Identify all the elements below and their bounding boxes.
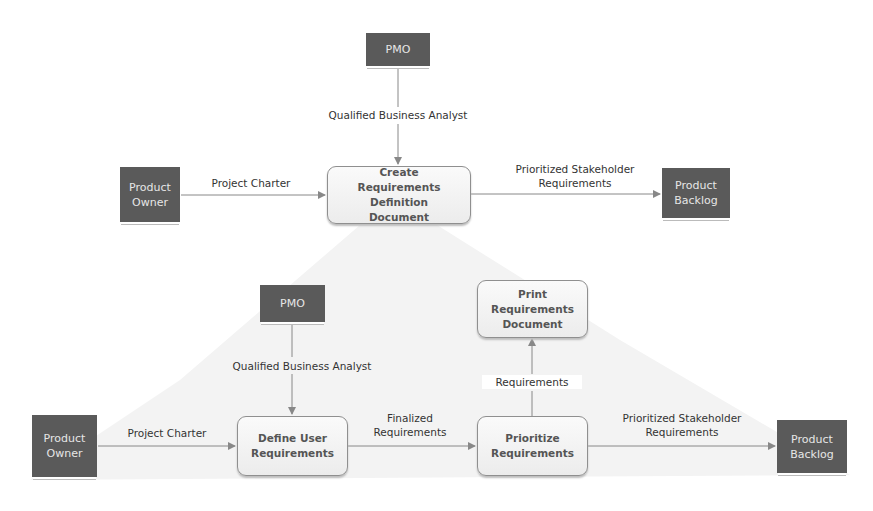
bottom-edge-label-requirements: Requirements	[482, 375, 582, 389]
process-prioritize-label: Prioritize Requirements	[490, 431, 575, 461]
top-product-owner-entity[interactable]: Product Owner	[120, 167, 180, 222]
diagram-canvas: PMO Qualified Business Analyst Product O…	[0, 0, 873, 511]
bottom-edge-label-project-charter: Project Charter	[112, 426, 222, 440]
bottom-edge-label-finalized-requirements: Finalized Requirements	[360, 411, 460, 439]
top-edge-label-project-charter: Project Charter	[196, 176, 306, 190]
top-edge-label-qualified-ba: Qualified Business Analyst	[318, 108, 478, 122]
process-define-user-requirements[interactable]: Define User Requirements	[237, 416, 348, 476]
top-pmo-entity[interactable]: PMO	[366, 33, 430, 66]
bottom-product-backlog-entity[interactable]: Product Backlog	[777, 420, 847, 473]
process-print-requirements-document[interactable]: Print Requirements Document	[477, 280, 588, 338]
top-edge-label-prioritized-stakeholder-requirements: Prioritized Stakeholder Requirements	[500, 162, 650, 190]
top-product-backlog-label: Product Backlog	[671, 178, 721, 208]
process-print-label: Print Requirements Document	[488, 287, 578, 332]
process-create-requirements-definition-document[interactable]: Create Requirements Definition Document	[327, 166, 471, 224]
bottom-product-owner-entity[interactable]: Product Owner	[32, 415, 97, 477]
process-create-label: Create Requirements Definition Document	[344, 165, 454, 225]
top-product-owner-label: Product Owner	[125, 180, 175, 210]
bottom-pmo-label: PMO	[280, 296, 305, 311]
bottom-edge-label-qualified-ba: Qualified Business Analyst	[222, 359, 382, 373]
bottom-product-owner-label: Product Owner	[40, 431, 90, 461]
top-pmo-label: PMO	[386, 42, 411, 57]
decomposition-shade	[30, 225, 850, 480]
process-define-label: Define User Requirements	[250, 431, 335, 461]
bottom-pmo-entity[interactable]: PMO	[260, 285, 325, 322]
bottom-edge-label-prioritized-stakeholder-requirements: Prioritized Stakeholder Requirements	[602, 411, 762, 439]
process-prioritize-requirements[interactable]: Prioritize Requirements	[477, 416, 588, 476]
top-product-backlog-entity[interactable]: Product Backlog	[662, 168, 730, 218]
bottom-product-backlog-label: Product Backlog	[787, 432, 837, 462]
